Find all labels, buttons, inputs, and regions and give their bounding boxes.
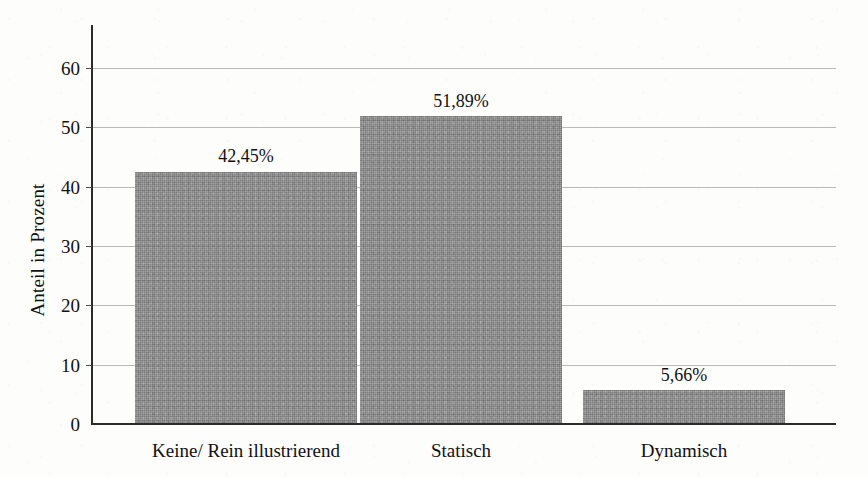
bar-dynamisch	[583, 390, 785, 424]
x-category-label-dynamisch: Dynamisch	[641, 441, 728, 460]
y-tick-label-10: 10	[40, 356, 80, 375]
y-tick-mark-50	[86, 127, 92, 128]
y-tick-mark-10	[86, 365, 92, 366]
bar-value-label-statisch: 51,89%	[433, 92, 489, 110]
gridline-60	[92, 68, 836, 69]
y-tick-label-60: 60	[40, 59, 80, 78]
y-tick-mark-60	[86, 68, 92, 69]
bar-value-label-dynamisch: 5,66%	[661, 366, 708, 384]
y-tick-mark-40	[86, 187, 92, 188]
y-tick-label-0: 0	[40, 415, 80, 434]
y-axis-title: Anteil in Prozent	[27, 183, 49, 316]
bar-value-label-keine-rein-illustrierend: 42,45%	[218, 147, 274, 165]
bar-keine-rein-illustrierend	[135, 172, 357, 424]
x-category-label-statisch: Statisch	[431, 441, 491, 460]
y-tick-label-50: 50	[40, 118, 80, 137]
y-tick-mark-30	[86, 246, 92, 247]
bar-statisch	[360, 116, 562, 424]
y-tick-mark-20	[86, 305, 92, 306]
x-category-label-keine-rein-illustrierend: Keine/ Rein illustrierend	[152, 441, 340, 460]
plot-area	[92, 25, 836, 424]
x-axis-line	[92, 423, 836, 425]
bar-chart: 60 50 40 30 20 10 0 Anteil in Prozent 42…	[0, 0, 868, 477]
